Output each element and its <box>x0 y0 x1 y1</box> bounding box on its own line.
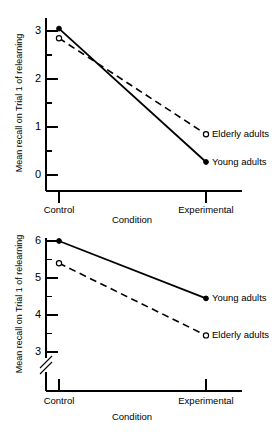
top-series-elderly-point-experimental <box>203 132 208 137</box>
bottom-series-elderly-point-control <box>56 261 61 266</box>
top-xcat-experimental: Experimental <box>178 204 233 215</box>
bottom-series-elderly-point-experimental <box>203 333 208 338</box>
bottom-ytick-label-6: 6 <box>35 234 41 246</box>
bottom-xcat-control: Control <box>44 395 75 406</box>
chart-bottom-panel: 3 4 5 6 Control Experimental Condition M… <box>0 224 278 447</box>
top-yaxis-title: Mean recall on Trial 1 of relearning <box>14 34 24 173</box>
bottom-series-young-point-control <box>57 239 62 244</box>
chart-top-panel: 0 1 2 3 Control Experimental Condition M… <box>0 0 278 224</box>
bottom-ytick-label-5: 5 <box>35 271 41 283</box>
top-ytick-label-1: 1 <box>35 120 41 132</box>
top-ytick-label-3: 3 <box>35 24 41 36</box>
bottom-xaxis-title: Condition <box>112 411 152 422</box>
top-series-young-point-experimental <box>204 160 209 165</box>
top-series-young-line <box>59 29 206 162</box>
bottom-ytick-label-4: 4 <box>35 308 41 320</box>
top-xcat-control: Control <box>44 204 75 215</box>
bottom-series-label-elderly: Elderly adults <box>212 329 269 340</box>
top-series-elderly-line <box>59 38 206 134</box>
bottom-yaxis-title: Mean recall on Trial 1 of relearning <box>14 235 24 374</box>
top-series-young-point-control <box>57 26 62 31</box>
bottom-series-young-line <box>59 241 206 298</box>
bottom-ytick-label-3: 3 <box>35 345 41 357</box>
bottom-series-young-point-experimental <box>204 296 209 301</box>
bottom-xcat-experimental: Experimental <box>178 395 233 406</box>
top-series-elderly-point-control <box>56 36 61 41</box>
top-ytick-label-0: 0 <box>35 168 41 180</box>
top-series-label-elderly: Elderly adults <box>212 128 269 139</box>
chart-top-svg: 0 1 2 3 Control Experimental Condition M… <box>0 0 278 224</box>
chart-bottom-svg: 3 4 5 6 Control Experimental Condition M… <box>0 224 278 447</box>
bottom-series-elderly-line <box>59 263 206 335</box>
top-series-label-young: Young adults <box>212 156 267 167</box>
top-ytick-label-2: 2 <box>35 72 41 84</box>
bottom-series-label-young: Young adults <box>212 292 267 303</box>
top-xaxis-title: Condition <box>112 214 152 224</box>
